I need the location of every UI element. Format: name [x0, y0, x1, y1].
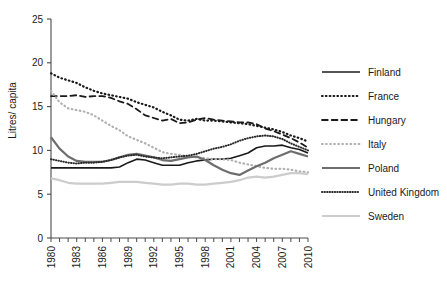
x-tick-label: 1983 [71, 246, 82, 269]
x-tick-label: 1980 [46, 246, 57, 269]
y-tick-label: 20 [32, 57, 44, 68]
y-tick-label: 10 [32, 145, 44, 156]
x-tick-label-group: 1989 [123, 246, 134, 269]
y-tick-label: 0 [37, 233, 43, 244]
x-tick-label-group: 1983 [71, 246, 82, 269]
chart-container: 0510152025198019831986198919921995199820… [0, 0, 447, 287]
legend-label: United Kingdom [368, 187, 439, 198]
legend-item-poland[interactable]: Poland [322, 163, 399, 174]
series-line-france [51, 73, 308, 141]
x-tick-label: 1986 [97, 246, 108, 269]
y-axis-title: Litres/ capita [7, 82, 18, 139]
x-tick-label-group: 2001 [225, 246, 236, 269]
x-tick-label: 2010 [303, 246, 314, 269]
legend-label: France [368, 91, 400, 102]
x-tick-label: 1989 [123, 246, 134, 269]
x-tick-label: 1995 [174, 246, 185, 269]
line-chart: 0510152025198019831986198919921995199820… [0, 0, 447, 287]
legend-item-france[interactable]: France [322, 91, 400, 102]
legend-label: Sweden [368, 211, 404, 222]
x-tick-label-group: 2010 [303, 246, 314, 269]
x-tick-label-group: 1980 [46, 246, 57, 269]
series-line-sweden [51, 173, 308, 184]
x-tick-label-group: 1992 [148, 246, 159, 269]
y-tick-label: 25 [32, 14, 44, 25]
x-tick-label: 2001 [225, 246, 236, 269]
x-tick-label: 1992 [148, 246, 159, 269]
legend-label: Hungary [368, 115, 406, 126]
legend-item-italy[interactable]: Italy [322, 139, 386, 150]
x-tick-label: 2007 [277, 246, 288, 269]
y-tick-label: 15 [32, 101, 44, 112]
series-line-hungary [51, 95, 308, 148]
legend-item-sweden[interactable]: Sweden [322, 211, 404, 222]
x-tick-label-group: 1998 [200, 246, 211, 269]
x-tick-label-group: 2007 [277, 246, 288, 269]
legend-item-finland[interactable]: Finland [322, 67, 401, 78]
x-tick-label: 2004 [251, 246, 262, 269]
legend-item-hungary[interactable]: Hungary [322, 115, 406, 126]
x-tick-label: 1998 [200, 246, 211, 269]
y-tick-label: 5 [37, 189, 43, 200]
y-axis-title-group: Litres/ capita [7, 82, 18, 139]
legend-label: Poland [368, 163, 399, 174]
x-tick-label-group: 1986 [97, 246, 108, 269]
legend-item-united-kingdom[interactable]: United Kingdom [322, 187, 439, 198]
x-tick-label-group: 1995 [174, 246, 185, 269]
legend-label: Finland [368, 67, 401, 78]
x-tick-label-group: 2004 [251, 246, 262, 269]
legend-label: Italy [368, 139, 386, 150]
